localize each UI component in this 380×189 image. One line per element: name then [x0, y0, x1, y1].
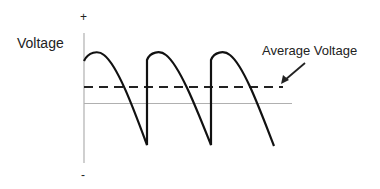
annotation-arrow	[285, 63, 305, 80]
waveform	[84, 52, 274, 146]
minus-sign: -	[81, 168, 85, 182]
voltage-diagram	[0, 0, 380, 189]
average-voltage-annotation: Average Voltage	[262, 43, 357, 58]
plus-sign: +	[80, 10, 87, 24]
arrow-head-icon	[281, 75, 289, 84]
y-axis-label: Voltage	[17, 35, 64, 51]
